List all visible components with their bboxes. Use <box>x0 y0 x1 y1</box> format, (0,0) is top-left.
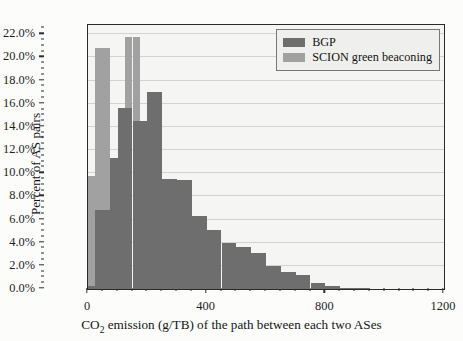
y-axis-minor-tick <box>41 201 44 202</box>
histogram-bar <box>125 108 132 289</box>
histogram-bar <box>184 180 191 289</box>
histogram-bar <box>88 176 95 289</box>
y-axis-tick-mark <box>39 148 44 149</box>
x-axis-tick-label: 400 <box>196 299 215 314</box>
y-axis-minor-tick <box>41 50 44 51</box>
x-axis-minor-tick <box>413 288 414 291</box>
y-axis-tick-label: 8.0% <box>9 188 35 203</box>
y-axis-minor-tick <box>41 114 44 115</box>
histogram-bar <box>140 121 147 289</box>
legend-item: BGP <box>283 35 432 50</box>
legend: BGP SCION green beaconing <box>276 29 440 71</box>
histogram-bar <box>288 272 295 289</box>
histogram-bar <box>162 179 169 289</box>
y-axis-tick-label: 10.0% <box>3 165 35 180</box>
y-axis-minor-tick <box>41 230 44 231</box>
histogram-bar <box>333 286 340 289</box>
y-axis-minor-tick <box>41 183 44 184</box>
y-axis-tick-label: 20.0% <box>3 49 35 64</box>
y-axis-minor-tick <box>41 96 44 97</box>
y-axis-tick-label: 2.0% <box>9 257 35 272</box>
y-axis-tick-mark <box>39 102 44 103</box>
x-axis-minor-tick <box>428 288 429 291</box>
x-axis-title-pre: CO <box>81 317 99 332</box>
histogram-bar <box>325 286 332 289</box>
y-axis-minor-tick <box>41 131 44 132</box>
y-axis-tick-label: 6.0% <box>9 211 35 226</box>
histogram-bar <box>259 253 266 289</box>
y-axis-minor-tick <box>41 282 44 283</box>
y-axis-tick-mark <box>39 79 44 80</box>
histogram-bar <box>133 121 140 289</box>
y-axis-minor-tick <box>41 73 44 74</box>
plot-area: BGP SCION green beaconing <box>87 24 445 290</box>
legend-label-scion: SCION green beaconing <box>312 50 432 65</box>
chart-figure: Percent of AS pairs 0.0%2.0%4.0%6.0%8.0%… <box>0 0 463 341</box>
histogram-bar <box>88 286 95 289</box>
y-axis-minor-tick <box>41 62 44 63</box>
y-axis-minor-tick <box>41 120 44 121</box>
histogram-bar <box>362 288 369 289</box>
legend-item: SCION green beaconing <box>283 50 432 65</box>
y-axis-minor-tick <box>41 91 44 92</box>
histogram-bar <box>266 266 273 289</box>
y-axis-tick-label: 18.0% <box>3 72 35 87</box>
histogram-bar <box>147 92 154 289</box>
y-axis-tick-mark <box>39 264 44 265</box>
histogram-bar <box>318 283 325 289</box>
y-axis-tick-mark <box>39 241 44 242</box>
histogram-bar <box>177 180 184 289</box>
y-axis-tick-label: 22.0% <box>3 26 35 41</box>
y-axis-minor-tick <box>41 259 44 260</box>
y-axis-tick-label: 12.0% <box>3 142 35 157</box>
y-axis-tick-mark <box>39 56 44 57</box>
y-axis-minor-tick <box>41 224 44 225</box>
histogram-bar <box>192 216 199 289</box>
y-axis-tick-label: 14.0% <box>3 118 35 133</box>
histogram-bar <box>207 230 214 289</box>
histogram-bar <box>273 266 280 289</box>
y-axis-tick-mark <box>39 172 44 173</box>
histogram-bar <box>244 247 251 289</box>
grid-line <box>88 80 444 81</box>
histogram-bar <box>222 243 229 289</box>
histogram-bar <box>348 288 355 289</box>
y-axis-minor-tick <box>41 44 44 45</box>
histogram-bar <box>95 210 102 289</box>
histogram-bar <box>170 179 177 289</box>
histogram-bar <box>281 272 288 289</box>
x-axis-tick-label: 0 <box>84 299 90 314</box>
histogram-bar <box>251 253 258 289</box>
y-axis-tick-label: 16.0% <box>3 95 35 110</box>
legend-swatch-scion <box>283 53 305 62</box>
y-axis-minor-tick <box>41 68 44 69</box>
histogram-bar <box>199 216 206 289</box>
y-axis-tick-mark <box>39 33 44 34</box>
histogram-bar <box>303 275 310 289</box>
x-axis-minor-tick <box>398 288 399 291</box>
y-axis-minor-tick <box>41 189 44 190</box>
histogram-bar <box>311 283 318 289</box>
y-axis-minor-tick <box>41 212 44 213</box>
y-axis-minor-tick <box>41 143 44 144</box>
y-axis-minor-tick <box>41 235 44 236</box>
legend-swatch-bgp <box>283 38 305 47</box>
y-axis-minor-tick <box>41 270 44 271</box>
histogram-bar <box>214 230 221 289</box>
x-axis-tick-mark <box>442 288 443 293</box>
x-axis-tick-label: 1200 <box>431 299 456 314</box>
y-axis-minor-tick <box>41 166 44 167</box>
histogram-bar <box>103 210 110 289</box>
x-axis-title: CO2 emission (g/TB) of the path between … <box>0 317 463 335</box>
histogram-bar <box>236 247 243 289</box>
y-axis-minor-tick <box>41 276 44 277</box>
histogram-bar <box>355 288 362 289</box>
histogram-bar <box>296 275 303 289</box>
y-axis-tick-mark <box>39 195 44 196</box>
histogram-bar <box>340 288 347 289</box>
y-axis-minor-tick <box>41 247 44 248</box>
y-axis-minor-tick <box>41 253 44 254</box>
y-axis-minor-tick <box>41 137 44 138</box>
y-axis-minor-tick <box>41 27 44 28</box>
y-axis-minor-tick <box>41 178 44 179</box>
